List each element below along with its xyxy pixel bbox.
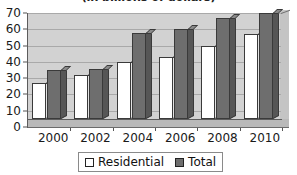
bar-residential-2002[interactable] (74, 75, 88, 119)
x-tick-label: 2008 (200, 131, 246, 145)
bar-front-face (216, 18, 230, 119)
x-tick-mark (70, 128, 71, 131)
y-tick-label: 60 (6, 23, 21, 35)
chart-container: (in billions of dollars) 706050403020100… (0, 0, 297, 175)
y-tick-label: 50 (6, 40, 21, 52)
bar-residential-2008[interactable] (201, 46, 215, 119)
bar-side-face (273, 10, 279, 119)
x-tick-mark (155, 128, 156, 131)
bar-total-2006[interactable] (174, 29, 188, 119)
bar-group (32, 11, 74, 119)
x-tick-label: 2010 (242, 131, 288, 145)
bar-total-2000[interactable] (47, 70, 61, 119)
bar-front-face (244, 34, 258, 119)
bar-top-face (229, 14, 240, 19)
bar-front-face (201, 46, 215, 119)
y-tick-label: 0 (13, 121, 21, 133)
legend-label: Total (188, 155, 216, 169)
bar-group (201, 11, 243, 119)
bar-front-face (89, 69, 103, 119)
bar-group (244, 11, 286, 119)
bar-group (159, 11, 201, 119)
legend-item-residential[interactable]: Residential (85, 155, 164, 169)
bar-total-2010[interactable] (259, 13, 273, 119)
y-axis: 706050403020100 (0, 0, 24, 175)
bar-front-face (32, 83, 46, 119)
x-tick-label: 2000 (30, 131, 76, 145)
x-tick-mark (113, 128, 114, 131)
chart-legend: ResidentialTotal (78, 152, 223, 172)
x-tick-mark (197, 128, 198, 131)
legend-item-total[interactable]: Total (175, 155, 216, 169)
bar-group (74, 11, 116, 119)
x-tick-mark (240, 128, 241, 131)
bars-layer (27, 10, 289, 128)
bar-side-face (146, 29, 152, 119)
bar-front-face (132, 33, 146, 119)
y-tick-label: 40 (6, 56, 21, 68)
bar-front-face (74, 75, 88, 119)
bar-total-2002[interactable] (89, 69, 103, 119)
bar-front-face (259, 13, 273, 119)
y-tick-label: 20 (6, 88, 21, 100)
x-axis: 200020022004200620082010 (27, 131, 289, 147)
y-tick-label: 70 (6, 7, 21, 19)
legend-swatch-icon (175, 158, 184, 167)
bar-front-face (47, 70, 61, 119)
bar-residential-2010[interactable] (244, 34, 258, 119)
bar-total-2004[interactable] (132, 33, 146, 119)
plot-area (27, 10, 289, 128)
y-tick-label: 10 (6, 105, 21, 117)
bar-total-2008[interactable] (216, 18, 230, 119)
bar-residential-2006[interactable] (159, 57, 173, 119)
bar-side-face (103, 65, 109, 119)
bar-front-face (159, 57, 173, 119)
x-tick-label: 2002 (73, 131, 119, 145)
bar-top-face (187, 25, 198, 30)
bar-top-face (102, 65, 113, 70)
x-tick-label: 2004 (115, 131, 161, 145)
legend-swatch-icon (85, 158, 94, 167)
bar-residential-2000[interactable] (32, 83, 46, 119)
bar-residential-2004[interactable] (117, 62, 131, 119)
x-tick-mark (282, 128, 283, 131)
bar-front-face (117, 62, 131, 119)
bar-side-face (61, 67, 67, 119)
bar-top-face (145, 29, 156, 34)
x-tick-label: 2006 (157, 131, 203, 145)
bar-top-face (60, 66, 71, 71)
bar-side-face (188, 26, 194, 119)
bar-top-face (272, 9, 283, 14)
bar-side-face (230, 15, 236, 119)
y-tick-label: 30 (6, 72, 21, 84)
bar-group (117, 11, 159, 119)
chart-title: (in billions of dollars) (0, 0, 297, 4)
legend-label: Residential (98, 155, 164, 169)
bar-front-face (174, 29, 188, 119)
